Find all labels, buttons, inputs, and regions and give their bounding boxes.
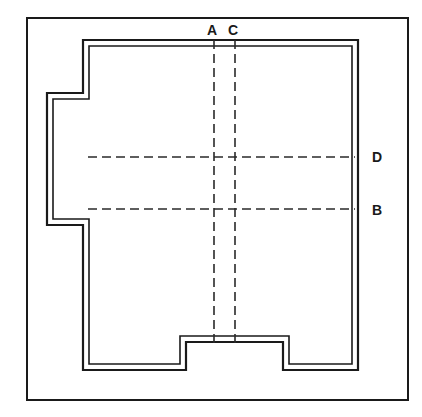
floor-plan-diagram: A C D B [0,0,422,417]
wall-inner-line [53,46,352,364]
section-label-b: B [372,203,382,217]
section-label-a: A [207,23,217,37]
section-label-c: C [228,23,238,37]
section-label-d: D [372,150,382,164]
floor-plan-drawing [0,0,422,417]
